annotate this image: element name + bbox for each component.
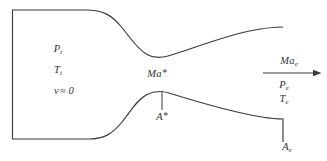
chamber-temperature-subscript: t (60, 69, 62, 77)
chamber-pressure-symbol: P (54, 43, 61, 54)
nozzle-diagram: Pt Tt v≈ 0 Ma* A* Mae Pe Te Ae (0, 0, 327, 161)
exit-area-symbol: A (282, 141, 289, 152)
exit-pressure-subscript: e (286, 84, 289, 92)
throat-area-label: A* (156, 111, 168, 123)
throat-mach-star: * (162, 67, 167, 78)
flow-arrow-head (313, 70, 322, 76)
chamber-velocity-symbol: v (54, 85, 59, 96)
nozzle-outline-svg (0, 0, 327, 161)
exit-mach-subscript: e (295, 60, 298, 68)
chamber-velocity-value: ≈ 0 (60, 85, 74, 96)
exit-mach-label: Mae (280, 56, 298, 68)
exit-pressure-label: Pe (279, 80, 289, 92)
throat-mach-label: Ma* (147, 68, 166, 80)
exit-temperature-subscript: e (285, 98, 288, 106)
chamber-velocity-label: v≈ 0 (54, 86, 74, 97)
chamber-temperature-label: Tt (54, 65, 62, 77)
throat-area-star: * (163, 110, 168, 121)
throat-area-symbol: A (156, 111, 163, 122)
exit-mach-symbol: Ma (280, 55, 294, 66)
chamber-pressure-subscript: t (60, 48, 62, 56)
throat-mach-symbol: Ma (147, 68, 161, 79)
exit-pressure-symbol: P (279, 79, 286, 90)
exit-area-subscript: e (289, 146, 292, 154)
chamber-pressure-label: Pt (54, 44, 63, 56)
exit-area-label: Ae (282, 142, 292, 154)
exit-temperature-label: Te (279, 94, 288, 106)
